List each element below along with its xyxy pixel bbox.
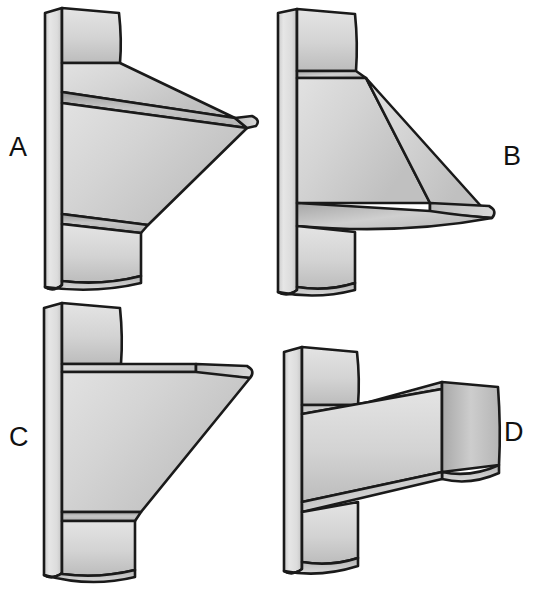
shape-c-back-plate bbox=[44, 303, 62, 577]
shape-label-d: D bbox=[504, 419, 524, 446]
shape-b-top-block bbox=[297, 9, 357, 71]
shape-label-b: B bbox=[503, 143, 521, 170]
shape-a-back-plate bbox=[45, 8, 62, 289]
shape-d-bottom-block bbox=[302, 502, 358, 564]
shape-c bbox=[44, 303, 252, 582]
shape-c-bottom-block bbox=[62, 521, 135, 576]
shape-d-top-block bbox=[302, 347, 359, 405]
figure-svg bbox=[0, 0, 538, 595]
shape-label-c: C bbox=[9, 424, 29, 451]
shape-b bbox=[278, 9, 494, 296]
shape-c-gusset-band bbox=[62, 512, 141, 521]
shape-c-top-block bbox=[62, 303, 122, 364]
figure-container: A B C D bbox=[0, 0, 538, 595]
shape-c-gusset-face bbox=[62, 372, 250, 512]
shape-b-back-plate bbox=[278, 9, 297, 294]
shape-d-back-plate bbox=[284, 347, 302, 573]
shape-a-top-block bbox=[62, 8, 121, 63]
shape-a-bottom-block bbox=[62, 224, 141, 283]
shape-a bbox=[45, 8, 258, 290]
shape-b-bottom-block bbox=[297, 226, 355, 289]
shape-d-arm-end bbox=[442, 382, 500, 472]
shape-label-a: A bbox=[9, 134, 27, 161]
shape-d bbox=[284, 347, 500, 574]
